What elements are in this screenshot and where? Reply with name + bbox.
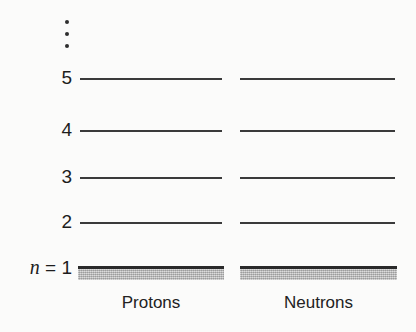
level-label-2: 2	[34, 212, 72, 231]
level-label-4: 4	[34, 120, 72, 139]
level-line-2-protons	[80, 222, 222, 224]
quantum-number-symbol: n	[30, 256, 40, 278]
level-label-3: 3	[34, 167, 72, 186]
continuation-dots	[65, 20, 75, 60]
level-line-4-protons	[80, 130, 222, 132]
level-label-5: 5	[34, 68, 72, 87]
level-line-3-neutrons	[240, 177, 395, 179]
column-caption-neutrons: Neutrons	[241, 293, 396, 313]
level-line-3-protons	[80, 177, 222, 179]
level-line-5-neutrons	[240, 78, 395, 80]
continuation-dot	[65, 32, 69, 36]
level-line-2-neutrons	[240, 222, 395, 224]
ground-level-number: 1	[56, 257, 72, 278]
level-line-4-neutrons	[240, 130, 395, 132]
level-line-5-protons	[80, 78, 222, 80]
level-label-1-ground: n = 1	[14, 258, 72, 277]
continuation-dot	[65, 20, 69, 24]
column-caption-protons: Protons	[81, 293, 221, 313]
energy-level-diagram: 5 4 3 2 n = 1 Protons Neutrons	[0, 0, 416, 332]
equals-glyph: =	[45, 257, 56, 278]
ground-state-band-neutrons	[240, 269, 397, 280]
ground-state-band-protons	[78, 269, 224, 280]
continuation-dot	[65, 44, 69, 48]
